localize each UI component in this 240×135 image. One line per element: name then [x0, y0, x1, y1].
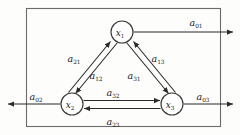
internal-edge-a21-label: a21 — [67, 53, 80, 65]
node-x2[interactable]: x2 — [61, 93, 83, 115]
diagram-canvas: a01 a02 a03 a21 a12 a13 — [0, 0, 240, 135]
internal-edge-a21: a21 — [67, 42, 110, 93]
node-x3[interactable]: x3 — [161, 93, 183, 115]
external-edge-a03-subscript: 03 — [202, 97, 210, 103]
internal-edge-a31-label: a31 — [127, 70, 140, 82]
internal-edge-a13-subscript: 13 — [157, 59, 165, 65]
internal-edge-a32-subscript: 32 — [112, 93, 120, 99]
internal-edge-a23-label: a23 — [106, 116, 119, 128]
internal-edge-a12-subscript: 12 — [95, 76, 103, 82]
internal-edge-a31: a31 — [127, 43, 169, 94]
internal-edge-a12-line — [76, 43, 118, 94]
external-edge-a02-label: a02 — [29, 91, 42, 103]
external-edge-a01: a01 — [134, 17, 234, 32]
node-x1-subscript: 1 — [121, 33, 125, 39]
flow-diagram-svg: a01 a02 a03 a21 a12 a13 — [0, 0, 240, 135]
node-x3-subscript: 3 — [171, 105, 175, 111]
external-edge-a03: a03 — [184, 91, 234, 104]
external-edge-a01-subscript: 01 — [195, 23, 202, 29]
external-edge-a02: a02 — [8, 91, 61, 104]
internal-edge-a12-label: a12 — [89, 70, 102, 82]
internal-edge-a31-line — [127, 43, 169, 94]
internal-edge-a23-subscript: 23 — [112, 122, 120, 128]
node-x1[interactable]: x1 — [111, 21, 133, 43]
internal-edge-a13-line — [134, 42, 176, 93]
internal-edge-a23: a23 — [84, 109, 161, 129]
internal-edge-a21-subscript: 21 — [73, 59, 80, 65]
internal-edge-a21-line — [69, 42, 111, 93]
external-edge-a03-label: a03 — [196, 91, 209, 103]
external-edge-a01-label: a01 — [189, 17, 202, 29]
node-x2-subscript: 2 — [71, 105, 75, 111]
external-edge-a02-subscript: 02 — [35, 97, 43, 103]
internal-edge-a12: a12 — [76, 43, 118, 94]
internal-edge-a13-label: a13 — [151, 53, 164, 65]
internal-edge-a32: a32 — [84, 87, 161, 101]
internal-edge-a13: a13 — [134, 42, 176, 93]
internal-edge-a31-subscript: 31 — [133, 76, 140, 82]
internal-edge-a32-label: a32 — [106, 87, 119, 99]
